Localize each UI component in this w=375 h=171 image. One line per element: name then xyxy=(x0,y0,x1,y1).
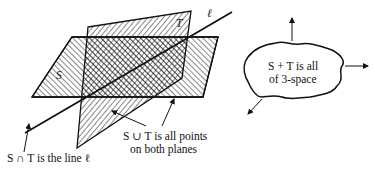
sum-caption-line2: of 3-space xyxy=(269,73,317,86)
intersection-caption: S ∩ T is the line ℓ xyxy=(7,152,90,164)
union-caption-line1: S ∪ T is all points xyxy=(123,130,208,143)
plane-s-label: S xyxy=(56,69,62,81)
union-caption-line2: on both planes xyxy=(130,143,198,156)
sum-caption-line1: S + T is all xyxy=(268,60,318,72)
arrow-down-left-icon xyxy=(248,99,262,114)
intersection-arrow xyxy=(24,124,29,152)
subspace-diagram: S T ℓ S ∩ T is the line ℓ S ∪ T is all p… xyxy=(0,0,375,171)
union-arrow-s xyxy=(162,99,174,126)
line-label: ℓ xyxy=(207,7,212,19)
